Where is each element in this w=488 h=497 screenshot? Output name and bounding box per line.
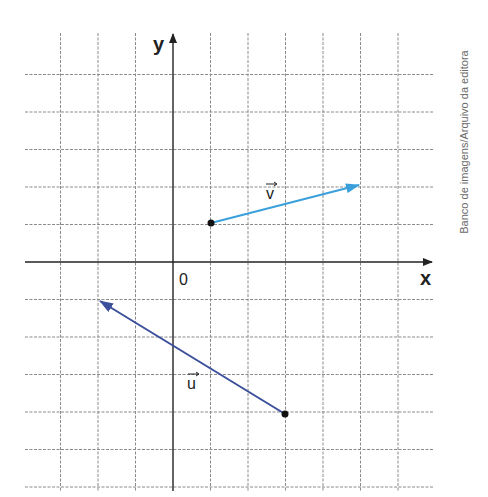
y-axis-label: y: [153, 33, 165, 55]
vector-u-arrow: [100, 301, 285, 414]
vector-u-label: u: [187, 375, 196, 392]
vector-v-tail-point: [208, 220, 215, 227]
origin-label: 0: [179, 271, 188, 288]
vector-u-tail-point: [282, 411, 289, 418]
vector-diagram: y x 0 v u: [0, 0, 488, 497]
vector-v-label: v: [266, 185, 274, 202]
image-credit: Banco de imagens/Arquivo da editora: [458, 50, 470, 233]
x-axis-label: x: [420, 267, 431, 289]
